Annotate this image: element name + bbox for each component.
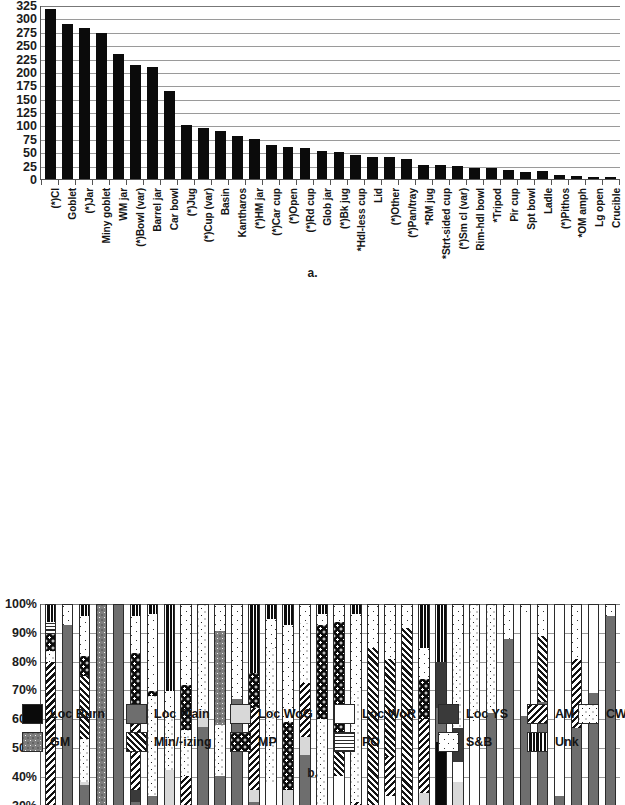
legend-swatch-gm-icon bbox=[22, 732, 43, 752]
stack-segment-unk bbox=[317, 605, 327, 614]
x-tickmark bbox=[296, 180, 313, 185]
legend-item-am[interactable]: AM bbox=[527, 704, 574, 724]
stack-segment-sb bbox=[300, 605, 310, 623]
legend-swatch-cw-icon bbox=[578, 704, 599, 724]
bar-column bbox=[229, 6, 246, 179]
bar bbox=[232, 136, 243, 179]
legend-item-unk[interactable]: Unk bbox=[527, 732, 579, 752]
x-label-cell: Rim-hdl bowl bbox=[466, 186, 483, 256]
stack-segment-mp bbox=[46, 634, 56, 651]
legend-item-po[interactable]: PO bbox=[334, 732, 380, 752]
stack-segment-sb bbox=[63, 605, 73, 625]
panel-a-caption: a. bbox=[0, 266, 625, 280]
x-label-cell: (*)Bk jug bbox=[330, 186, 347, 256]
stack-segment-sb bbox=[402, 605, 412, 628]
x-label-cell: (*)Jug bbox=[177, 186, 194, 256]
legend-label: Unk bbox=[555, 735, 579, 749]
legend-item-sb[interactable]: S&B bbox=[438, 732, 492, 752]
x-label-cell: Pir cup bbox=[500, 186, 517, 256]
legend-item-locwor[interactable]: Loc WoR bbox=[334, 704, 416, 724]
bar bbox=[605, 177, 616, 179]
stack-segment-unk bbox=[419, 605, 429, 648]
bar-column bbox=[178, 6, 195, 179]
bar bbox=[350, 155, 361, 179]
bar bbox=[300, 148, 311, 179]
x-tickmark bbox=[262, 180, 279, 185]
panel-b-caption: b. bbox=[0, 766, 625, 780]
legend-swatch-mp-icon bbox=[230, 732, 251, 752]
bar bbox=[317, 151, 328, 179]
stack-segment-locwog bbox=[419, 793, 429, 804]
bar-column bbox=[59, 6, 76, 179]
legend-label: Loc Burn bbox=[50, 707, 105, 721]
x-tickmark bbox=[177, 180, 194, 185]
stack-segment-sb bbox=[368, 605, 378, 648]
a-y-tick-label: 100 bbox=[16, 120, 37, 133]
panel-a-plot-area bbox=[40, 6, 620, 180]
stack-segment-locwog bbox=[453, 782, 463, 805]
panel-a-bar-chart: 0255075100125150175200225250275300325 (*… bbox=[0, 0, 625, 258]
x-label-cell: Goblet bbox=[58, 186, 75, 256]
a-y-tick-label: 125 bbox=[16, 107, 37, 120]
stack-segment-unk bbox=[266, 605, 276, 619]
x-label-cell: Barrel jar bbox=[143, 186, 160, 256]
a-y-tick-label: 150 bbox=[16, 93, 37, 106]
x-tickmark bbox=[109, 180, 126, 185]
x-tickmark bbox=[279, 180, 296, 185]
x-tickmark bbox=[432, 180, 449, 185]
stack-segment-am bbox=[181, 776, 191, 805]
stack-segment-mp bbox=[80, 656, 90, 676]
bar-column bbox=[449, 6, 466, 179]
bar bbox=[266, 145, 277, 179]
panel-a-x-tickmarks bbox=[40, 180, 620, 185]
bar bbox=[147, 67, 158, 179]
legend-row: GMMin/-izingMPPOS&BUnk bbox=[22, 728, 618, 756]
stack-segment-unk bbox=[283, 605, 293, 625]
bar-column bbox=[127, 6, 144, 179]
a-y-tick-label: 250 bbox=[16, 40, 37, 53]
x-tickmark bbox=[415, 180, 432, 185]
legend-item-gm[interactable]: GM bbox=[22, 732, 70, 752]
stack-segment-unk bbox=[148, 605, 158, 614]
bar bbox=[164, 91, 175, 179]
legend-item-min[interactable]: Min/-izing bbox=[126, 732, 212, 752]
legend-label: Loc WoG bbox=[258, 707, 313, 721]
bar-column bbox=[42, 6, 59, 179]
legend-swatch-locwog-icon bbox=[230, 704, 251, 724]
legend-item-cw[interactable]: CW bbox=[578, 704, 625, 724]
x-axis-label: Crucible bbox=[611, 188, 622, 228]
x-label-cell: (*)Pan/tray bbox=[398, 186, 415, 256]
legend-swatch-locburn-icon bbox=[22, 704, 43, 724]
stack-segment-locwog bbox=[283, 790, 293, 805]
legend-item-mp[interactable]: MP bbox=[230, 732, 277, 752]
legend-item-locburn[interactable]: Loc Burn bbox=[22, 704, 105, 724]
legend-item-locwog[interactable]: Loc WoG bbox=[230, 704, 313, 724]
legend-swatch-locwor-icon bbox=[334, 704, 355, 724]
bar bbox=[452, 166, 463, 179]
bar-column bbox=[76, 6, 93, 179]
legend-item-locys[interactable]: Loc YS bbox=[438, 704, 508, 724]
stack-segment-sb bbox=[131, 616, 141, 653]
stack-segment-min bbox=[538, 636, 548, 702]
legend-label: S&B bbox=[466, 735, 492, 749]
bar-column bbox=[364, 6, 381, 179]
stack-segment-cw bbox=[198, 605, 208, 711]
legend-swatch-min-icon bbox=[126, 732, 147, 752]
x-label-cell: (*)Cup (var) bbox=[194, 186, 211, 256]
x-label-cell: (*)Pithos bbox=[551, 186, 568, 256]
x-label-cell: (*)Jar bbox=[75, 186, 92, 256]
legend-item-locplain[interactable]: Loc Plain bbox=[126, 704, 210, 724]
stack-segment-unk bbox=[46, 605, 56, 622]
stack-segment-unk bbox=[131, 605, 141, 616]
panel-a-x-axis-labels: (*)ClGoblet(*)JarMiny gobletWM jar(*)Bow… bbox=[40, 186, 620, 256]
bar-column bbox=[297, 6, 314, 179]
bar-column bbox=[551, 6, 568, 179]
bar bbox=[435, 165, 446, 179]
x-label-cell: (*)Open bbox=[279, 186, 296, 256]
bar-column bbox=[483, 6, 500, 179]
a-y-tick-label: 325 bbox=[16, 0, 37, 12]
stack-segment-locwor bbox=[589, 605, 599, 693]
bar-column bbox=[432, 6, 449, 179]
stack-segment-sb bbox=[232, 605, 242, 699]
b-y-tick-label: 90% bbox=[12, 627, 37, 640]
